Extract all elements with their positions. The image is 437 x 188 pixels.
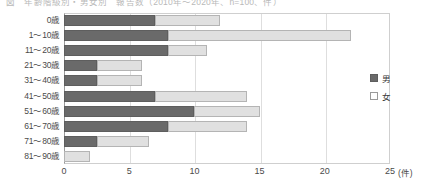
y-axis-tick-label: 31～40歳	[0, 75, 60, 86]
legend-swatch-female-icon	[370, 92, 378, 100]
bar-row[interactable]	[64, 15, 220, 26]
bar-segment-female[interactable]	[168, 121, 246, 132]
bar-row[interactable]	[64, 30, 351, 41]
x-axis-tick-label: 20	[320, 166, 330, 176]
x-axis-tick-label: 0	[61, 166, 66, 176]
y-axis-tick-label: 81～90歳	[0, 151, 60, 162]
bar-segment-female[interactable]	[168, 30, 351, 41]
bar-row[interactable]	[64, 151, 90, 162]
bar-segment-male[interactable]	[64, 30, 168, 41]
bar-row[interactable]	[64, 60, 142, 71]
bar-row[interactable]	[64, 121, 247, 132]
y-axis-tick-label: 51～60歳	[0, 106, 60, 117]
bar-segment-male[interactable]	[64, 75, 97, 86]
legend-item-female[interactable]: 女	[370, 90, 391, 102]
bar-segment-female[interactable]	[97, 136, 149, 147]
y-axis-tick-label: 41～50歳	[0, 91, 60, 102]
x-axis-labels: (件) 0510152025	[0, 166, 437, 180]
bar-segment-male[interactable]	[64, 121, 168, 132]
x-axis-tick-label: 25	[385, 166, 395, 176]
bar-row[interactable]	[64, 136, 149, 147]
legend-label: 男	[382, 72, 391, 84]
legend-swatch-male-icon	[370, 74, 378, 82]
y-axis-tick-label: 71～80歳	[0, 136, 60, 147]
y-axis-tick-label: 11～20歳	[0, 45, 60, 56]
bar-segment-male[interactable]	[64, 45, 168, 56]
bar-segment-male[interactable]	[64, 60, 97, 71]
bar-segment-male[interactable]	[64, 106, 194, 117]
x-axis-tick-label: 15	[255, 166, 265, 176]
x-axis-tick-label: 10	[189, 166, 199, 176]
y-axis-labels: 0歳1～10歳11～20歳21～30歳31～40歳41～50歳51～60歳61～…	[0, 13, 60, 164]
y-axis-tick-label: 1～10歳	[0, 30, 60, 41]
figure-caption: 図 年齢階級別・男女別 報告数（2010年～2020年、n=100、件）	[0, 0, 437, 9]
x-axis-tick-label: 5	[127, 166, 132, 176]
y-axis-tick-label: 21～30歳	[0, 60, 60, 71]
x-axis-unit: (件)	[398, 166, 413, 178]
bar-row[interactable]	[64, 91, 247, 102]
bar-segment-female[interactable]	[97, 60, 143, 71]
chart-root: 図 年齢階級別・男女別 報告数（2010年～2020年、n=100、件） 0歳1…	[0, 0, 437, 188]
bar-row[interactable]	[64, 75, 142, 86]
legend-label: 女	[382, 90, 391, 102]
bar-segment-male[interactable]	[64, 91, 155, 102]
bar-segment-female[interactable]	[168, 45, 207, 56]
bar-row[interactable]	[64, 106, 260, 117]
legend-item-male[interactable]: 男	[370, 72, 391, 84]
bar-segment-male[interactable]	[64, 15, 155, 26]
bar-segment-female[interactable]	[194, 106, 259, 117]
bar-rows	[64, 13, 390, 164]
y-axis-tick-label: 61～70歳	[0, 121, 60, 132]
bar-segment-female[interactable]	[64, 151, 90, 162]
chart-legend: 男女	[370, 72, 391, 108]
bar-segment-male[interactable]	[64, 136, 97, 147]
bar-row[interactable]	[64, 45, 207, 56]
figure-caption-text: 図 年齢階級別・男女別 報告数（2010年～2020年、n=100、件）	[6, 0, 282, 7]
bar-segment-female[interactable]	[155, 15, 220, 26]
bar-segment-female[interactable]	[97, 75, 143, 86]
bar-segment-female[interactable]	[155, 91, 246, 102]
y-axis-tick-label: 0歳	[0, 15, 60, 26]
